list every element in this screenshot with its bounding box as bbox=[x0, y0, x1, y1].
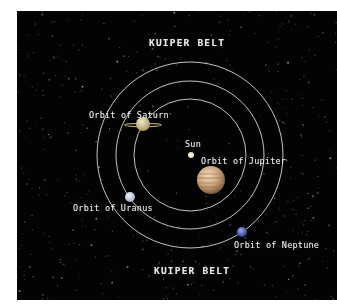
uranus-planet bbox=[125, 192, 135, 202]
sun bbox=[188, 152, 194, 158]
jupiter-planet bbox=[197, 166, 225, 194]
kuiper-belt-label-bottom: KUIPER BELT bbox=[154, 265, 230, 276]
kuiper-belt-label-top: KUIPER BELT bbox=[149, 37, 225, 48]
orbit-of-uranus-label: Orbit of Uranus bbox=[73, 203, 153, 213]
neptune-planet bbox=[237, 227, 247, 237]
solar-system-diagram: KUIPER BELT Orbit of Saturn Sun Orbit of… bbox=[17, 11, 337, 300]
orbit-of-neptune-label: Orbit of Neptune bbox=[234, 240, 319, 250]
orbit-of-jupiter-label: Orbit of Jupiter bbox=[201, 156, 286, 166]
orbit-of-saturn-label: Orbit of Saturn bbox=[89, 110, 169, 120]
sun-label: Sun bbox=[185, 139, 201, 149]
orbits-layer bbox=[17, 11, 337, 300]
